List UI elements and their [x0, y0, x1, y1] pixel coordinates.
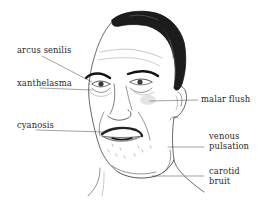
label-carotid-bruit-2: bruit — [209, 177, 230, 187]
jaw — [118, 160, 174, 178]
hair — [112, 11, 186, 90]
label-xanthelasma: xanthelasma — [17, 79, 72, 89]
label-arcus-senilis: arcus senilis — [17, 46, 71, 56]
upper-lip — [102, 128, 142, 136]
malar-flush-patch — [140, 95, 156, 105]
leader-malar-flush — [150, 100, 198, 101]
lower-lip — [102, 136, 142, 141]
iris-left — [98, 81, 103, 86]
face-diagram: arcus senilis xanthelasma cyanosis malar… — [0, 0, 264, 212]
neck-left — [88, 168, 100, 196]
neck-right — [173, 118, 205, 192]
nose-bridge — [110, 84, 115, 114]
label-venous-pulsation-2: pulsation — [209, 142, 249, 152]
eyebrow-right — [128, 71, 158, 76]
label-malar-flush: malar flush — [201, 95, 250, 105]
label-cyanosis: cyanosis — [17, 121, 54, 131]
ear — [174, 86, 187, 118]
iris-right — [137, 79, 142, 84]
